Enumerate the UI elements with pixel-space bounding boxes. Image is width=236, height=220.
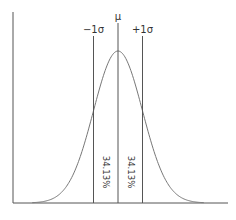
mean-label: μ: [115, 11, 122, 22]
plus-sigma-label: +1σ: [132, 24, 154, 35]
region-percent-label: 34.13%: [101, 156, 112, 189]
region-percent-label: 34.13%: [126, 156, 137, 189]
normal-distribution-chart: −1σμ+1σ 34.13%34.13%: [0, 0, 236, 220]
minus-sigma-label: −1σ: [83, 24, 105, 35]
